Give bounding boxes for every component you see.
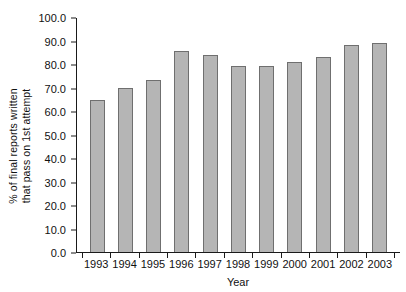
bar-slot xyxy=(366,18,394,252)
plot-area xyxy=(76,18,400,253)
bar[interactable] xyxy=(287,62,302,252)
x-tick-label: 2002 xyxy=(339,258,363,270)
bar-slot xyxy=(196,18,224,252)
y-tick-label: 0.0 xyxy=(51,247,66,259)
bar[interactable] xyxy=(146,80,161,252)
y-tick-label: 100.0 xyxy=(38,12,66,24)
bar[interactable] xyxy=(259,66,274,252)
y-axis-ticks: 0.010.020.030.040.050.060.070.080.090.01… xyxy=(0,0,76,292)
bar[interactable] xyxy=(231,66,246,252)
bar-slot xyxy=(281,18,309,252)
bar[interactable] xyxy=(344,45,359,252)
y-tick-label: 30.0 xyxy=(45,177,66,189)
y-tick-label: 40.0 xyxy=(45,153,66,165)
x-tick-label: 2003 xyxy=(368,258,392,270)
x-tick-label: 1999 xyxy=(254,258,278,270)
bar-slot xyxy=(253,18,281,252)
y-tick-label: 10.0 xyxy=(45,224,66,236)
x-axis-tick-labels: 1993199419951996199719981999200020012002… xyxy=(76,258,400,274)
x-tick-label: 1993 xyxy=(84,258,108,270)
bar[interactable] xyxy=(203,55,218,252)
y-tick-label: 20.0 xyxy=(45,200,66,212)
bar-slot xyxy=(83,18,111,252)
y-tick-label: 60.0 xyxy=(45,106,66,118)
bar-series xyxy=(77,18,400,252)
x-tick-label: 2001 xyxy=(311,258,335,270)
bar-slot xyxy=(224,18,252,252)
x-tick-label: 2000 xyxy=(282,258,306,270)
bar-chart-figure: % of final reports written that pass on … xyxy=(0,0,406,292)
bar[interactable] xyxy=(316,57,331,252)
bar[interactable] xyxy=(118,88,133,253)
x-tick-label: 1994 xyxy=(112,258,136,270)
bar-slot xyxy=(168,18,196,252)
x-tick-label: 1998 xyxy=(226,258,250,270)
bar-slot xyxy=(111,18,139,252)
x-tick-label: 1997 xyxy=(197,258,221,270)
x-tick-label: 1996 xyxy=(169,258,193,270)
y-tick-label: 70.0 xyxy=(45,83,66,95)
y-tick-label: 50.0 xyxy=(45,130,66,142)
x-tick-label: 1995 xyxy=(141,258,165,270)
bar[interactable] xyxy=(90,100,105,252)
bar[interactable] xyxy=(174,51,189,252)
x-axis-title: Year xyxy=(76,276,400,288)
y-tick-label: 90.0 xyxy=(45,36,66,48)
bar-slot xyxy=(309,18,337,252)
y-tick-label: 80.0 xyxy=(45,59,66,71)
bar-slot xyxy=(337,18,365,252)
bar-slot xyxy=(140,18,168,252)
bar[interactable] xyxy=(372,43,387,252)
